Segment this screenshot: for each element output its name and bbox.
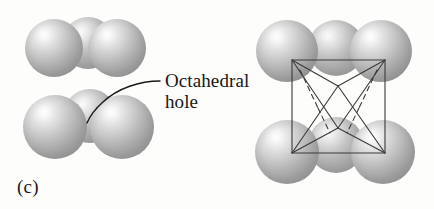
- sphere-bottom-front-left-2: [90, 95, 154, 159]
- callout-label: Octahedral hole: [165, 70, 249, 112]
- callout-line-2: hole: [165, 91, 249, 112]
- panel-label: (c): [17, 176, 39, 198]
- sphere-top-front-left-2: [88, 19, 146, 77]
- octahedral-hole-figure: Octahedral hole: [0, 0, 434, 209]
- sphere-top-front-right-1: [256, 20, 318, 82]
- sphere-top-front-left-1: [25, 19, 83, 77]
- sphere-bottom-front-right-1: [255, 120, 319, 184]
- sphere-bottom-front-right-2: [351, 120, 415, 184]
- sphere-bottom-front-left-1: [23, 95, 87, 159]
- callout-line-1: Octahedral: [165, 70, 249, 91]
- sphere-top-front-right-2: [350, 20, 412, 82]
